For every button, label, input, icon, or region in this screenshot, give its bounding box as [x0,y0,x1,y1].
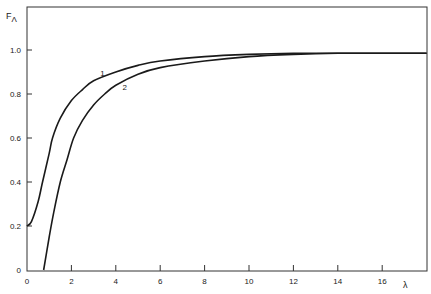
curve-label: 2 [122,83,127,92]
x-axis-ticks: 0246810121416 [25,265,387,286]
line-chart: 0246810121416 00.20.40.60.81.0 12 FΛ λ [0,0,431,294]
curve-2 [44,53,427,270]
plot-frame [27,7,427,271]
y-tick-label: 1.0 [10,46,22,55]
x-tick-label: 14 [333,277,342,286]
y-tick-label: 0.8 [10,90,22,99]
x-axis-label: λ [403,280,408,290]
y-tick-label: 0.6 [10,134,22,143]
curve-1 [27,53,427,226]
x-tick-label: 0 [25,277,30,286]
y-axis-ticks: 00.20.40.60.81.0 [10,46,32,275]
y-tick-label: 0.4 [10,178,22,187]
y-tick-label: 0 [17,266,22,275]
x-tick-label: 8 [202,277,207,286]
x-tick-label: 2 [69,277,74,286]
curves [27,53,427,270]
y-axis-label: FΛ [6,11,18,24]
curve-label: 1 [100,69,105,78]
x-tick-label: 4 [114,277,119,286]
y-tick-label: 0.2 [10,222,22,231]
x-tick-label: 16 [378,277,387,286]
x-tick-label: 6 [158,277,163,286]
x-tick-label: 10 [245,277,254,286]
x-tick-label: 12 [289,277,298,286]
